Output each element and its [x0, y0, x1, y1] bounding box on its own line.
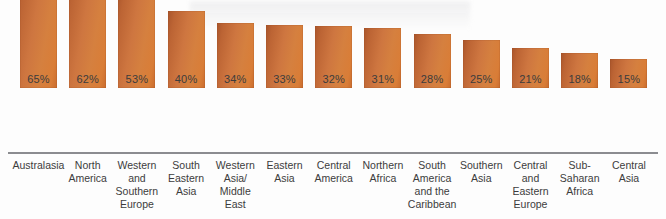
bar-value-label: 32% [322, 73, 345, 85]
bar-value-label: 53% [126, 73, 149, 85]
bar-value-label: 21% [519, 73, 542, 85]
bar-value-label: 15% [618, 73, 641, 85]
category-label: Central Asia [598, 159, 660, 185]
bar-chart: 65%62%53%40%34%33%32%31%28%25%21%18%15% … [0, 0, 666, 219]
bar-value-label: 31% [372, 73, 395, 85]
bar-value-label: 62% [76, 73, 99, 85]
bar-value-label: 18% [568, 73, 591, 85]
plot-area: 65%62%53%40%34%33%32%31%28%25%21%18%15% [0, 0, 666, 154]
bar-value-label: 28% [421, 73, 444, 85]
bar-value-label: 34% [224, 73, 247, 85]
bar-value-label: 25% [470, 73, 493, 85]
bar-value-label: 40% [175, 73, 198, 85]
bar-value-label: 65% [27, 73, 50, 85]
bar-value-label: 33% [273, 73, 296, 85]
x-axis-line [8, 152, 658, 154]
